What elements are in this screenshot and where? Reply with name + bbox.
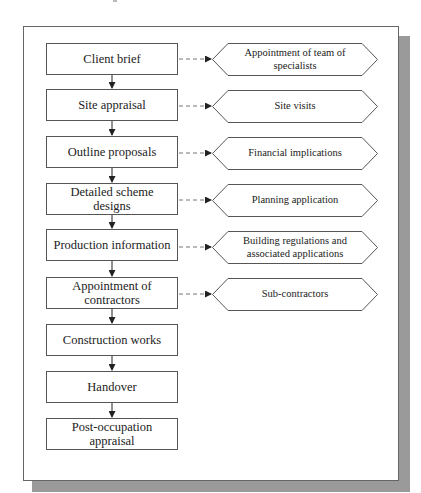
step-construction-works: Construction works	[46, 324, 178, 356]
step-handover: Handover	[46, 371, 178, 403]
step-client-brief: Client brief	[46, 43, 178, 75]
step-outline-proposals: Outline proposals	[46, 136, 178, 168]
side-label: Site visits	[230, 90, 360, 123]
step-detailed-scheme-designs: Detailed scheme designs	[46, 183, 178, 215]
step-appointment-of-contractors: Appointment of contractors	[46, 277, 178, 309]
side-sub-contractors: Sub-contractors	[212, 278, 378, 311]
step-post-occupation-appraisal: Post-occupation appraisal	[46, 418, 178, 450]
side-appointment-of-specialists: Appointment of team of specialists	[212, 43, 378, 76]
side-planning-application: Planning application	[212, 184, 378, 217]
side-label: Appointment of team of specialists	[230, 43, 360, 76]
side-label: Financial implications	[230, 137, 360, 170]
side-building-regulations: Building regulations and associated appl…	[212, 231, 378, 264]
side-arrows	[179, 59, 211, 294]
side-label: Planning application	[230, 184, 360, 217]
step-production-information: Production information	[46, 229, 178, 261]
step-site-appraisal: Site appraisal	[46, 89, 178, 121]
side-label: Sub-contractors	[230, 278, 360, 311]
side-label: Building regulations and associated appl…	[230, 231, 360, 264]
side-site-visits: Site visits	[212, 90, 378, 123]
side-financial-implications: Financial implications	[212, 137, 378, 170]
